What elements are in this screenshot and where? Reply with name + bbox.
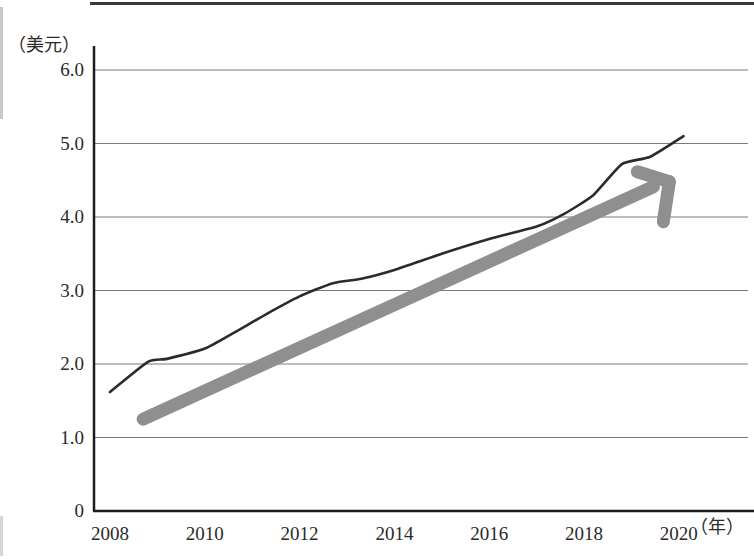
chart-page: （美元） （年） 6.05.04.03.02.01.00 20082010201…: [0, 0, 754, 559]
gridlines: [94, 70, 748, 438]
series-layer: [110, 136, 684, 419]
chart-plot-area: [0, 0, 754, 559]
axis-lines: [93, 46, 754, 511]
data-line: [110, 136, 684, 392]
trend-arrow-shaft: [143, 187, 653, 419]
trend-arrow-head-lower: [663, 182, 669, 222]
